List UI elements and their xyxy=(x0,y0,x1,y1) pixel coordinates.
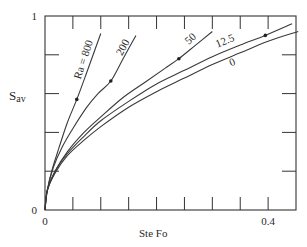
x-axis-label: Ste Fo xyxy=(139,227,168,239)
series-marker xyxy=(109,79,113,83)
series-label: 200 xyxy=(113,37,132,58)
axis-labels: Sav Ste Fo xyxy=(9,88,168,239)
x-tick-label: 0.4 xyxy=(261,215,275,227)
series-line xyxy=(45,32,212,210)
y-tick-label: 1 xyxy=(32,10,38,22)
series-markers xyxy=(75,34,267,102)
series-label: 50 xyxy=(182,30,199,47)
series-labels: Ra = 8002005012.50 xyxy=(71,30,237,81)
line-chart: 00.401 Ra = 8002005012.50 Sav Ste Fo xyxy=(0,0,307,247)
series-marker xyxy=(264,34,268,38)
x-tick-label: 0 xyxy=(42,215,48,227)
y-tick-label: 0 xyxy=(32,204,38,216)
series-label: 0 xyxy=(227,55,237,68)
series-label: 12.5 xyxy=(214,31,237,50)
series-line xyxy=(45,33,101,210)
series-marker xyxy=(75,98,79,102)
y-axis-label: Sav xyxy=(9,88,26,104)
axis-ticks: 00.401 xyxy=(32,10,297,227)
series-marker xyxy=(177,57,181,61)
